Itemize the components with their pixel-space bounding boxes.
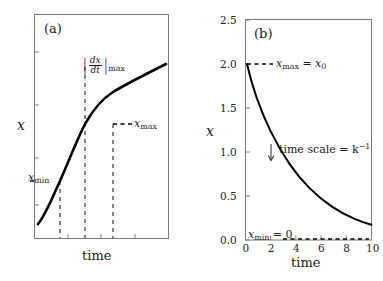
panel-b-xmax-eq: = x — [299, 57, 321, 70]
panel-a-maxslope-label: |dxdt|max — [82, 56, 125, 76]
panel-b-frame — [246, 20, 372, 241]
panel-b-xtick-3: 6 — [318, 243, 325, 254]
panel-b-xtick-0: 0 — [243, 243, 250, 254]
panel-b-ytick-4: 2.0 — [220, 59, 237, 70]
panel-b-xtick-5: 10 — [366, 243, 379, 254]
panel-a-xmax-label: xmax — [134, 118, 157, 131]
panel-b-xmax-sub: max — [282, 62, 299, 71]
panel-a-curve — [38, 64, 166, 224]
derivative-denominator: dt — [89, 66, 102, 75]
panel-b-xtick-4: 8 — [343, 243, 350, 254]
panel-a-xmin-sub: min — [34, 176, 49, 185]
panel-b-ytick-0: 0.0 — [220, 235, 237, 246]
panel-b-xmin-sub: min — [254, 233, 269, 242]
panel-b-timescale-exponent: −1 — [359, 142, 371, 151]
panel-a-x-axis-label: time — [82, 249, 111, 262]
panel-a-x-ticks — [68, 234, 135, 239]
panel-b-xtick-1: 2 — [268, 243, 275, 254]
panel-b: (b) 0.0 0.5 1.0 1.5 2.0 2.5 0 2 4 6 8 10… — [191, 0, 383, 281]
panel-b-timescale-text: time scale = k — [279, 143, 359, 156]
right-vertical-bar-icon: | — [104, 57, 107, 74]
panel-a-y-axis-label: x — [17, 118, 25, 132]
panel-b-xtick-2: 4 — [293, 243, 300, 254]
panel-b-y-ticks — [246, 20, 251, 240]
panel-b-xmax-label: xmax = x0 — [276, 58, 326, 71]
panel-b-xmin-label: xmin = 0 — [248, 229, 293, 242]
panel-a-tag: (a) — [44, 22, 62, 35]
panel-b-ytick-2: 1.0 — [220, 147, 237, 158]
panel-a-plot — [0, 0, 192, 281]
panel-a: (a) x time xmin xmax |dxdt|max — [0, 0, 192, 281]
panel-a-xmin-label: xmin — [28, 172, 49, 185]
panel-b-timescale-label: time scale = k−1 — [279, 143, 370, 155]
panel-b-xmax-sub0: 0 — [321, 62, 326, 71]
panel-b-ytick-3: 1.5 — [220, 103, 237, 114]
panel-b-ytick-5: 2.5 — [220, 15, 237, 26]
panel-a-xmax-sub: max — [140, 122, 157, 131]
panel-b-ytick-1: 0.5 — [220, 191, 237, 202]
panel-b-tag: (b) — [254, 27, 272, 40]
derivative-fraction: dxdt — [89, 56, 102, 76]
left-vertical-bar-icon: | — [83, 57, 86, 74]
panel-b-y-axis-label: x — [206, 124, 214, 138]
panel-b-timescale-arrow-icon — [268, 144, 274, 161]
figure-container: (a) x time xmin xmax |dxdt|max — [0, 0, 383, 281]
panel-b-x-axis-label: time — [291, 256, 320, 269]
panel-a-maxslope-sub: max — [108, 64, 125, 73]
panel-b-xmin-eq: = 0 — [269, 228, 292, 241]
